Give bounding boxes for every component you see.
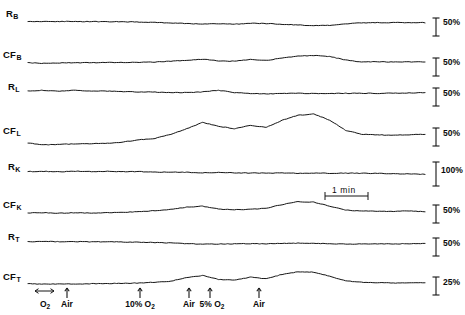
trace-label-text: R xyxy=(8,81,15,92)
scale-bar-cf-k xyxy=(433,205,440,223)
trace-path-group xyxy=(28,21,425,284)
trace-label-text: R xyxy=(8,231,15,242)
scale-label-r-l: 50% xyxy=(443,89,460,98)
time-calibration-label: 1 min xyxy=(332,186,356,195)
scale-label-r-b: 50% xyxy=(443,18,460,27)
scale-bar-r-b xyxy=(433,18,440,36)
trace-line-cf-k xyxy=(28,202,425,214)
trace-label-cf-t: CFT xyxy=(3,272,21,282)
trace-label-subscript: L xyxy=(15,86,19,93)
event-label-text: 5% O xyxy=(200,299,221,309)
trace-label-subscript: B xyxy=(13,13,18,20)
trace-line-r-k xyxy=(28,171,425,174)
trace-label-text: CF xyxy=(3,199,16,210)
event-marker-2 xyxy=(138,288,142,298)
scale-bar-r-l xyxy=(433,88,440,106)
event-label-10-percent-o2: 10% O2 xyxy=(125,300,155,309)
scale-bar-cf-t xyxy=(433,277,440,295)
event-marker-1 xyxy=(65,288,69,298)
event-label-5-percent-o2: 5% O2 xyxy=(200,300,225,309)
trace-label-text: CF xyxy=(3,271,16,282)
traces-canvas xyxy=(0,0,465,315)
event-label-text: Air xyxy=(61,299,73,309)
trace-label-subscript: B xyxy=(16,54,21,61)
event-label-subscript: 2 xyxy=(221,303,225,310)
event-label-text: Air xyxy=(253,299,265,309)
event-label-air-3: Air xyxy=(253,300,265,309)
trace-label-r-k: RK xyxy=(8,162,20,172)
scale-label-cf-l: 50% xyxy=(443,129,460,138)
scale-label-cf-b: 50% xyxy=(443,58,460,67)
trace-label-subscript: L xyxy=(16,130,20,137)
event-label-o2: O2 xyxy=(40,300,50,309)
event-label-air-1: Air xyxy=(61,300,73,309)
scale-bar-cf-b xyxy=(433,58,440,76)
trace-label-text: CF xyxy=(3,125,16,136)
scale-bar-group xyxy=(433,18,440,295)
scale-label-cf-k: 50% xyxy=(443,206,460,215)
trace-label-r-t: RT xyxy=(8,232,20,242)
trace-label-subscript: T xyxy=(15,236,19,243)
event-label-text: 10% O xyxy=(125,299,151,309)
trace-line-cf-b xyxy=(28,55,425,63)
scale-label-r-t: 50% xyxy=(443,239,460,248)
event-marker-3 xyxy=(187,288,191,298)
event-marker-group xyxy=(35,288,261,298)
trace-line-r-t xyxy=(28,241,425,244)
trace-line-r-l xyxy=(28,90,425,94)
trace-label-text: R xyxy=(6,8,13,19)
trace-label-subscript: K xyxy=(16,204,21,211)
trace-label-subscript: K xyxy=(15,166,20,173)
trace-line-r-b xyxy=(28,21,425,25)
physiological-recording-figure: RB CFB RL CFL RK CFK RT CFT 50% 50% 50% … xyxy=(0,0,465,315)
scale-bar-cf-l xyxy=(433,128,440,146)
trace-label-cf-k: CFK xyxy=(3,200,21,210)
event-label-subscript: 2 xyxy=(151,303,155,310)
event-label-text: Air xyxy=(183,299,195,309)
event-marker-5 xyxy=(257,288,261,298)
trace-label-cf-b: CFB xyxy=(3,50,21,60)
trace-line-cf-t xyxy=(28,272,425,284)
event-marker-4 xyxy=(208,288,212,298)
trace-label-r-l: RL xyxy=(8,82,20,92)
event-label-air-2: Air xyxy=(183,300,195,309)
trace-label-subscript: T xyxy=(16,276,20,283)
event-marker-0 xyxy=(35,289,54,294)
event-label-text: O xyxy=(40,299,47,309)
trace-label-text: CF xyxy=(3,49,16,60)
scale-label-cf-t: 25% xyxy=(443,278,460,287)
trace-label-text: R xyxy=(8,161,15,172)
scale-label-r-k: 100% xyxy=(441,166,463,175)
trace-label-r-b: RB xyxy=(6,9,18,19)
event-label-subscript: 2 xyxy=(47,303,51,310)
scale-bar-r-t xyxy=(433,238,440,256)
scale-bar-r-k xyxy=(433,162,440,186)
trace-label-cf-l: CFL xyxy=(3,126,21,136)
trace-line-cf-l xyxy=(28,114,425,145)
